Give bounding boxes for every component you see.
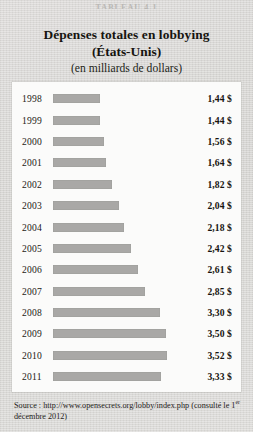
bar-track [53,131,183,152]
bar-row: 20062,61 $ [12,259,241,280]
bar-row-year-label: 2003 [22,200,56,211]
bar [53,308,160,317]
chart-title-block: Dépenses totales en lobbying (États-Unis… [10,26,243,77]
source-text-prefix: Source : http://www.opensecrets.org/lobb… [14,401,235,410]
bar-row-value-label: 3,50 $ [180,328,232,339]
bar [53,94,100,103]
bar-row: 20072,85 $ [12,281,241,302]
bar-row-year-label: 2008 [22,307,56,318]
bar [53,223,124,232]
bar [53,158,106,167]
bar-row: 20103,52 $ [12,345,241,366]
bar-row-value-label: 2,42 $ [180,243,232,254]
bar [53,116,100,125]
bar-track [53,174,183,195]
bar-row-year-label: 2005 [22,243,56,254]
bar [53,329,166,338]
bar-row: 20083,30 $ [12,302,241,323]
bar-track [53,366,183,387]
bar-row-value-label: 3,52 $ [180,350,232,361]
source-note: Source : http://www.opensecrets.org/lobb… [14,400,240,423]
bar-row: 19981,44 $ [12,88,241,109]
bar-row: 20093,50 $ [12,323,241,344]
bar-row-value-label: 1,56 $ [180,136,232,147]
chart-title-line-2: (États-Unis) [10,43,243,60]
bar-row-year-label: 2001 [22,157,56,168]
bar-row: 20032,04 $ [12,195,241,216]
figure-number-caption: TABLEAU 4.1 [0,0,253,9]
bar-track [53,88,183,109]
bar-track [53,281,183,302]
chart-title-units: (en milliards de dollars) [10,62,243,77]
bar-row: 20021,82 $ [12,174,241,195]
bar-row-value-label: 1,82 $ [180,179,232,190]
bar [53,201,119,210]
bar-track [53,302,183,323]
bar-row: 19991,44 $ [12,109,241,130]
bar-row-year-label: 2009 [22,328,56,339]
bar [53,180,112,189]
bar-row-value-label: 2,85 $ [180,286,232,297]
bar-row-value-label: 2,61 $ [180,264,232,275]
chart-panel: 19981,44 $19991,44 $20001,56 $20011,64 $… [12,82,241,392]
bar-track [53,195,183,216]
bar-track [53,109,183,130]
bar [53,351,167,360]
figure-sheet: TABLEAU 4.1 Dépenses totales en lobbying… [0,0,253,432]
bar-row-year-label: 1998 [22,93,56,104]
source-ordinal: er [235,399,239,405]
bar-row-year-label: 2002 [22,179,56,190]
figure-number-text: TABLEAU 4.1 [95,3,157,9]
bar-track [53,323,183,344]
bar-track [53,238,183,259]
bar-row-year-label: 1999 [22,115,56,126]
bar-track [53,152,183,173]
bar-row-year-label: 2011 [22,371,56,382]
bar-row-value-label: 2,18 $ [180,222,232,233]
bar-track [53,216,183,237]
bar-row: 20042,18 $ [12,216,241,237]
bar [53,265,138,274]
chart-title-line-1: Dépenses totales en lobbying [10,26,243,43]
bar-row-year-label: 2004 [22,222,56,233]
bar-row: 20052,42 $ [12,238,241,259]
bar [53,287,145,296]
source-text-suffix: décembre 2012) [14,412,67,421]
bar-row: 20011,64 $ [12,152,241,173]
bar [53,372,161,381]
bar [53,137,104,146]
bar-row-value-label: 2,04 $ [180,200,232,211]
bar-row-value-label: 1,44 $ [180,93,232,104]
bar-row: 20001,56 $ [12,131,241,152]
bar-track [53,259,183,280]
bar-row-year-label: 2007 [22,286,56,297]
bar-row-value-label: 3,30 $ [180,307,232,318]
bar-row-value-label: 1,64 $ [180,157,232,168]
bar-row-year-label: 2000 [22,136,56,147]
bar-row-year-label: 2010 [22,350,56,361]
bar-row-value-label: 3,33 $ [180,371,232,382]
bar-row-year-label: 2006 [22,264,56,275]
bar [53,244,131,253]
bar-track [53,345,183,366]
bar-rows-container: 19981,44 $19991,44 $20001,56 $20011,64 $… [12,88,241,392]
bar-row-value-label: 1,44 $ [180,115,232,126]
bar-row: 20113,33 $ [12,366,241,387]
